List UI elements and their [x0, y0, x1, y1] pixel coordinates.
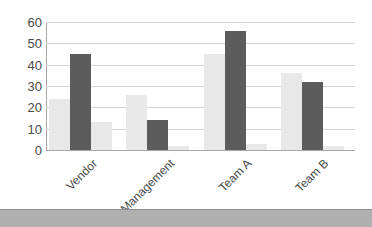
bar[interactable]: [168, 146, 189, 150]
bar[interactable]: [225, 31, 246, 150]
bar[interactable]: [302, 82, 323, 150]
y-tick-label: 20: [2, 101, 42, 114]
bar[interactable]: [70, 54, 91, 150]
plot-area: [46, 22, 355, 150]
bar-group: [49, 22, 112, 150]
bar-group: [281, 22, 344, 150]
bar[interactable]: [204, 54, 225, 150]
y-tick-label: 30: [2, 80, 42, 93]
bar-chart: 0102030405060 VendorManagementTeam ATeam…: [0, 0, 372, 227]
bar-group: [204, 22, 267, 150]
x-axis-category-labels: VendorManagementTeam ATeam B: [0, 151, 372, 211]
bar[interactable]: [91, 122, 112, 150]
bar[interactable]: [49, 99, 70, 150]
bar[interactable]: [281, 73, 302, 150]
bar[interactable]: [246, 144, 267, 150]
bar-group: [126, 22, 189, 150]
bar[interactable]: [147, 120, 168, 150]
y-tick-label: 40: [2, 59, 42, 72]
y-tick-label: 50: [2, 37, 42, 50]
bar[interactable]: [323, 146, 344, 150]
y-tick-label: 10: [2, 123, 42, 136]
y-tick-label: 60: [2, 16, 42, 29]
bar[interactable]: [126, 95, 147, 150]
footer-band: [0, 209, 372, 227]
